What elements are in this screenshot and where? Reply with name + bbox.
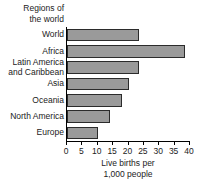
x-axis-tick-label: 10 (92, 146, 101, 156)
category-label: Africa (0, 47, 64, 57)
plot-area (66, 27, 190, 141)
category-label: Latin Americaand Caribbean (0, 58, 64, 76)
x-axis-tick-label: 30 (154, 146, 163, 156)
x-axis-tick (112, 142, 113, 145)
x-axis-title-line-2: 1,000 people (62, 169, 194, 180)
x-axis-tick (189, 142, 190, 145)
x-axis-tick-label: 25 (138, 146, 147, 156)
x-axis-tick (143, 142, 144, 145)
x-axis-tick (158, 142, 159, 145)
bar-chart: Regions of the world WorldAfricaLatin Am… (0, 0, 201, 188)
category-label-line: North America (0, 112, 64, 122)
x-axis-tick-label: 15 (107, 146, 116, 156)
category-label: Oceania (0, 96, 64, 106)
bar (67, 110, 110, 123)
x-axis-tick (128, 142, 129, 145)
x-axis-tick (97, 142, 98, 145)
bar (67, 29, 139, 42)
y-axis-title-line-1: Regions of (0, 3, 64, 14)
y-axis-title-line-2: the world (0, 14, 64, 25)
category-label-line: and Caribbean (0, 68, 64, 77)
category-label-line: Europe (0, 128, 64, 138)
bar-series (67, 27, 190, 141)
category-label: World (0, 30, 64, 40)
bar (67, 127, 98, 140)
bar (67, 61, 139, 74)
x-axis-tick-label: 35 (169, 146, 178, 156)
category-label-line: World (0, 30, 64, 40)
category-label-line: Asia (0, 79, 64, 89)
category-label-line: Oceania (0, 96, 64, 106)
bar (67, 78, 129, 91)
bar (67, 94, 122, 107)
bar (67, 45, 185, 58)
x-axis-title-line-1: Live births per (62, 158, 194, 169)
category-label: Asia (0, 79, 64, 89)
x-axis-tick-label: 0 (64, 146, 69, 156)
category-label-list: WorldAfricaLatin Americaand CaribbeanAsi… (0, 27, 64, 141)
x-axis-tick-label: 5 (79, 146, 84, 156)
x-axis-tick-label: 40 (184, 146, 193, 156)
category-label: Europe (0, 128, 64, 138)
y-axis-title: Regions of the world (0, 3, 64, 24)
category-label: North America (0, 112, 64, 122)
category-label-line: Africa (0, 47, 64, 57)
x-axis-tick (66, 142, 67, 145)
x-axis-title: Live births per 1,000 people (62, 158, 194, 180)
x-axis-tick (81, 142, 82, 145)
x-axis-tick-label: 20 (123, 146, 132, 156)
x-axis-tick (174, 142, 175, 145)
x-axis-tick-labels: 0510152025303540 (66, 146, 190, 157)
